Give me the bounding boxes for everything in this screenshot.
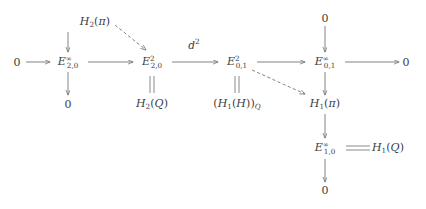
node-e0-1-infinity: E∞0,1 (315, 55, 336, 69)
node-zero-below-left: 0 (64, 99, 71, 110)
node-e2-0-infinity: E∞2,0 (58, 55, 79, 69)
node-h1-h-q: (H1(H))Q (213, 98, 261, 111)
node-e1-0-infinity: E∞1,0 (315, 141, 336, 155)
node-h2-q: H2(Q) (136, 98, 168, 111)
zero-top-label: 0 (321, 12, 328, 25)
node-e2-0-page2: E22,0 (142, 55, 162, 69)
node-h1-pi: H1(π) (310, 98, 340, 111)
node-e0-1-page2: E20,1 (227, 55, 247, 69)
d2-base: d (188, 39, 195, 51)
node-zero-bottom: 0 (321, 185, 328, 196)
dashed-arrow-h2pi-to-e202 (115, 25, 146, 50)
d2-exponent: 2 (195, 37, 200, 46)
zero-right-label: 0 (402, 56, 409, 69)
zero-left-label: 0 (13, 56, 20, 69)
diagram-canvas: H2(π) 0 E∞2,0 E22,0 E20,1 E∞0,1 0 0 0 H2… (0, 0, 426, 209)
node-zero-top: 0 (321, 13, 328, 24)
dashed-arrow-e012-to-h1pi (252, 70, 305, 94)
zero-below-left-label: 0 (64, 98, 71, 111)
zero-bottom-label: 0 (321, 184, 328, 197)
node-zero-left: 0 (13, 57, 20, 68)
edge-label-d2: d2 (188, 37, 199, 50)
equality-e10inf-h1q (346, 146, 370, 150)
equality-e202-h2q (150, 76, 154, 93)
node-zero-right: 0 (402, 57, 409, 68)
node-h2-pi: H2(π) (80, 16, 110, 29)
equality-e012-h1hq (235, 76, 239, 93)
node-h1-q: H1(Q) (372, 142, 404, 155)
